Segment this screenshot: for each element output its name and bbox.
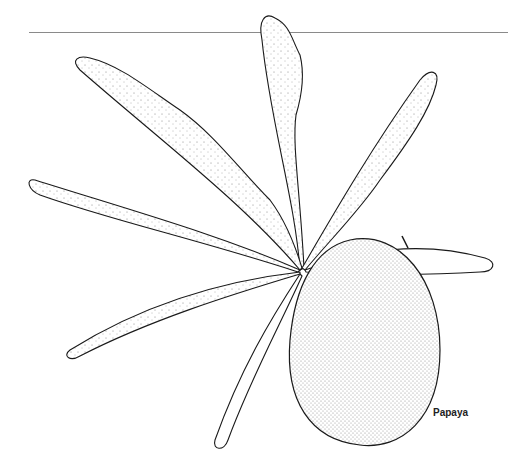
- caption: Papaya: [433, 407, 468, 418]
- papaya-illustration: [0, 0, 508, 453]
